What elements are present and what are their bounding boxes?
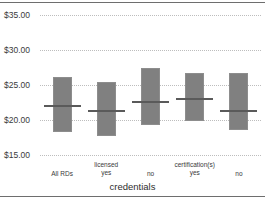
- range-bar: [97, 82, 116, 136]
- x-axis-group-label: certification(s): [165, 161, 225, 169]
- top-divider-rule: [0, 2, 265, 3]
- x-axis-tick-label: no: [209, 170, 265, 178]
- x-axis-title: credentials: [0, 181, 265, 192]
- y-axis-tick-label: $15.00: [4, 151, 38, 160]
- y-axis-tick-label: $30.00: [4, 46, 38, 55]
- median-marker: [44, 105, 81, 107]
- y-axis-tick-label: $35.00: [4, 11, 38, 20]
- gridline: [40, 50, 261, 52]
- median-marker: [220, 110, 257, 112]
- median-marker: [88, 110, 125, 112]
- range-bar: [185, 73, 204, 121]
- chart-figure: $35.00$30.00$25.00$20.00$15.00 All RDsli…: [0, 0, 265, 202]
- range-bar: [141, 68, 160, 125]
- median-marker: [176, 98, 213, 100]
- y-axis-tick-label: $25.00: [4, 81, 38, 90]
- range-bar: [229, 73, 248, 130]
- bottom-divider-rule: [0, 196, 265, 197]
- gridline: [40, 155, 261, 157]
- plot-area: [40, 8, 261, 160]
- x-axis-level-label: no: [209, 170, 265, 178]
- gridline: [40, 15, 261, 17]
- y-axis-tick-label: $20.00: [4, 116, 38, 125]
- x-axis-group-label: licensed: [76, 161, 136, 169]
- median-marker: [132, 101, 169, 103]
